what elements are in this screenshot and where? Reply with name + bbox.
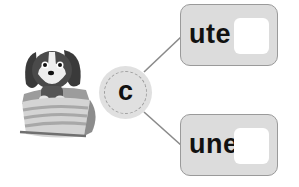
center-letter-circle: c [99,66,152,119]
option-box-1: ute [180,4,278,66]
option-word: une [189,129,239,160]
option-box-2: une [180,114,278,176]
answer-box[interactable] [234,128,269,164]
option-word: ute [189,19,231,50]
answer-box[interactable] [234,18,269,54]
center-letter: c [99,76,152,107]
dog-in-basket-icon [14,44,99,139]
